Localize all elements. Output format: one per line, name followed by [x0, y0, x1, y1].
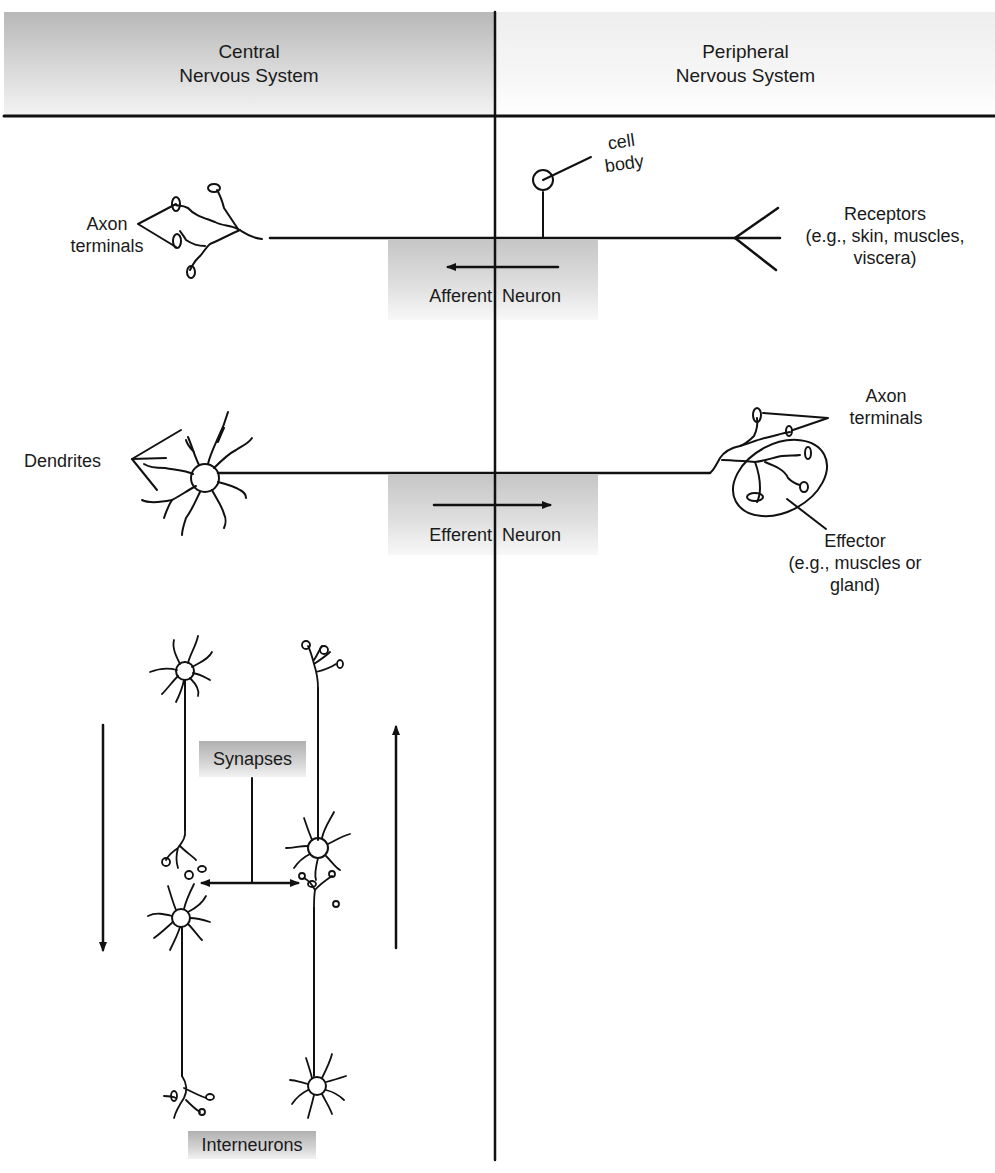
efferent-label-left: Efferent	[414, 524, 492, 546]
receptors-label: Receptors (e.g., skin, muscles, viscera)	[785, 203, 985, 269]
interneurons-label: Interneurons	[188, 1131, 316, 1159]
dendrites-label: Dendrites	[24, 450, 128, 472]
effector-label: Effector (e.g., muscles or gland)	[770, 530, 940, 596]
efferent-axon-terminals-line2: terminals	[836, 407, 936, 429]
efferent-label-right: Neuron	[502, 524, 561, 546]
axon-terminals-line1: Axon	[62, 213, 152, 235]
synapses-label: Synapses	[199, 741, 306, 777]
receptors-line1: Receptors	[785, 203, 985, 225]
efferent-axon-terminals-line1: Axon	[836, 385, 936, 407]
effector-line1: Effector	[770, 530, 940, 552]
afferent-label-right: Neuron	[502, 285, 561, 307]
receptors-line3: viscera)	[785, 247, 985, 269]
receptors-line2: (e.g., skin, muscles,	[785, 225, 985, 247]
afferent-axon-terminals-label: Axon terminals	[62, 213, 152, 257]
effector-line2: (e.g., muscles or	[770, 552, 940, 574]
cell-body-label: cell body	[590, 127, 656, 179]
effector-line3: gland)	[770, 574, 940, 596]
efferent-axon-terminals-label: Axon terminals	[836, 385, 936, 429]
afferent-neuron	[138, 157, 780, 278]
interneurons-group	[103, 636, 396, 1118]
efferent-neuron	[132, 408, 840, 535]
afferent-label-left: Afferent	[418, 285, 492, 307]
axon-terminals-line2: terminals	[62, 235, 152, 257]
